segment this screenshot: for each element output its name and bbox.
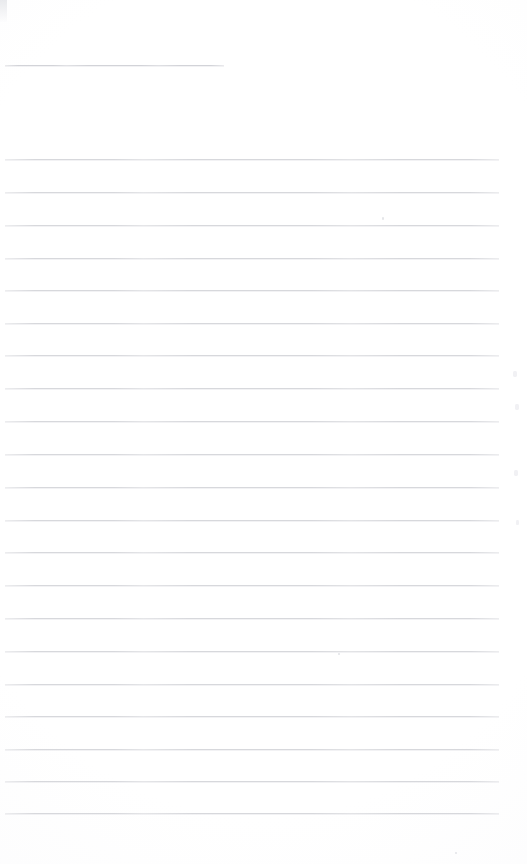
speck-upper-right-artifact [382,217,384,220]
scanned-page [0,0,527,864]
corner-smudge-artifact [0,0,7,22]
ruled-line [5,290,499,291]
ruled-line [5,421,499,422]
fleck-right-4-artifact [516,520,519,525]
ruled-line [5,781,499,782]
title-rule [5,65,224,66]
ruled-line [5,716,499,717]
fleck-right-2-artifact [515,404,519,410]
ruled-line [5,684,499,685]
ruled-line [5,388,499,389]
ruled-line [5,585,499,586]
ruled-line [5,258,499,259]
ruled-line [5,651,499,652]
fleck-right-1-artifact [513,371,517,377]
ruled-line [5,355,499,356]
ruled-line [5,552,499,553]
ruled-line [5,225,499,226]
ruled-line [5,749,499,750]
ruled-line [5,192,499,193]
ruled-line [5,454,499,455]
ruled-line [5,487,499,488]
paper-texture [0,0,527,864]
fleck-right-3-artifact [514,470,518,476]
ruled-line [5,813,499,814]
ruled-line [5,520,499,521]
speck-lower-center-artifact [338,653,340,655]
speck-bottom-artifact [455,852,457,854]
ruled-line [5,323,499,324]
ruled-line [5,618,499,619]
ruled-line [5,159,499,160]
